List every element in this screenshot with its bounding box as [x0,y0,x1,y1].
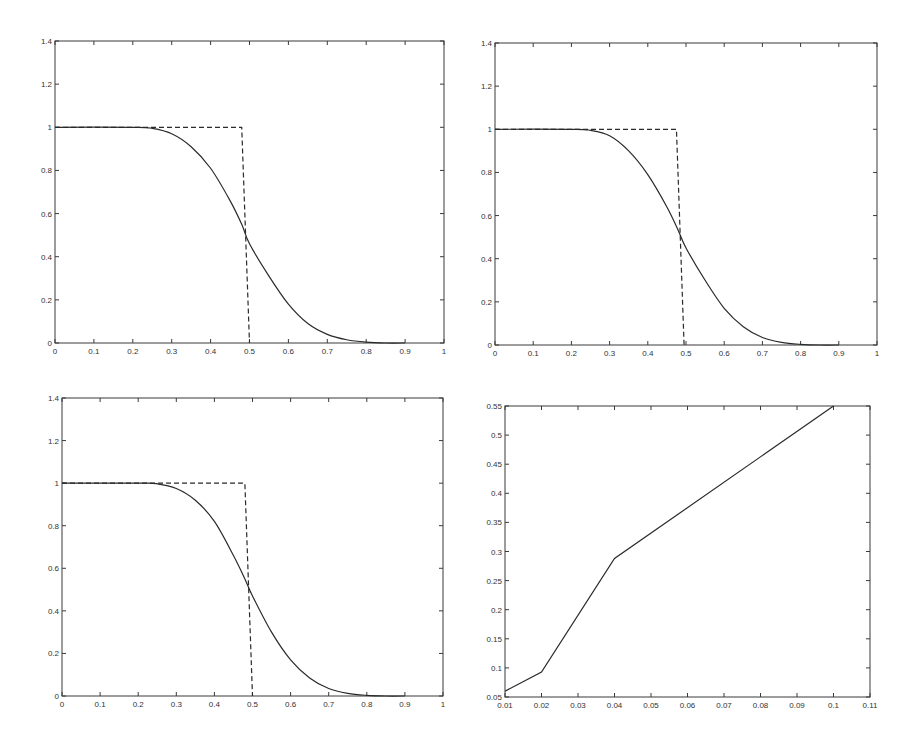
axes-frame [495,43,877,345]
y-tick-label: 1 [48,123,53,132]
y-tick-label: 1.4 [481,39,493,48]
x-tick-label: 0 [493,349,498,358]
y-tick-label: 0.4 [41,253,53,262]
x-tick-label: 0.08 [753,701,769,710]
x-tick-label: 0.04 [607,701,623,710]
y-tick-label: 0.4 [48,607,60,616]
x-tick-label: 0.1 [95,700,107,709]
y-tick-label: 1.2 [41,80,53,89]
x-tick-label: 0.3 [166,347,178,356]
x-tick-label: 0.09 [789,701,805,710]
x-tick-label: 0.6 [719,349,731,358]
x-tick-label: 0.4 [642,349,654,358]
figure-canvas: 00.10.20.30.40.50.60.70.80.9100.20.40.60… [0,0,913,741]
solid-series-line [55,127,405,343]
y-tick-label: 0.35 [486,518,502,527]
x-tick-label: 0.3 [171,700,183,709]
x-tick-label: 0.6 [285,700,297,709]
x-tick-label: 0.5 [247,700,259,709]
x-tick-label: 0.8 [361,700,373,709]
y-tick-label: 0.6 [41,210,53,219]
dashed-series-line [62,483,253,696]
solid-series-line [495,129,839,345]
y-tick-label: 1.2 [481,82,493,91]
y-tick-label: 1.4 [48,394,60,403]
x-tick-label: 0.03 [570,701,586,710]
axes-frame [55,41,444,343]
x-tick-label: 0.1 [828,701,840,710]
y-tick-label: 0 [55,692,60,701]
x-tick-label: 0.05 [643,701,659,710]
x-tick-label: 0.9 [399,700,411,709]
x-tick-label: 1 [442,347,447,356]
x-tick-label: 0.2 [133,700,145,709]
y-tick-label: 1 [55,479,60,488]
y-tick-label: 0.1 [491,664,503,673]
axes-frame [505,406,870,697]
y-tick-label: 0.8 [48,522,60,531]
x-tick-label: 0.1 [528,349,540,358]
axes-frame [62,398,443,696]
x-tick-label: 0.4 [205,347,217,356]
x-tick-label: 0.8 [795,349,807,358]
y-tick-label: 0.4 [491,489,503,498]
x-tick-label: 0.7 [322,347,334,356]
y-tick-label: 0.6 [481,212,493,221]
x-tick-label: 1 [441,700,446,709]
y-tick-label: 0.8 [41,166,53,175]
plot-top-left: 00.10.20.30.40.50.60.70.80.9100.20.40.60… [41,37,447,356]
y-tick-label: 0.05 [486,693,502,702]
x-tick-label: 0.7 [757,349,769,358]
x-tick-label: 0.3 [604,349,616,358]
x-tick-label: 0.5 [244,347,256,356]
x-tick-label: 0.07 [716,701,732,710]
x-tick-label: 0.01 [497,701,513,710]
y-tick-label: 0.6 [48,564,60,573]
x-tick-label: 0.2 [127,347,139,356]
x-tick-label: 0.2 [566,349,578,358]
y-tick-label: 0.4 [481,255,493,264]
x-tick-label: 0.02 [534,701,550,710]
x-tick-label: 0.5 [680,349,692,358]
y-tick-label: 0.2 [48,649,60,658]
y-tick-label: 1.2 [48,437,60,446]
x-tick-label: 0 [53,347,58,356]
plot-bottom-left: 00.10.20.30.40.50.60.70.80.9100.20.40.60… [48,394,446,709]
y-tick-label: 1.4 [41,37,53,46]
y-tick-label: 0.5 [491,431,503,440]
x-tick-label: 0.7 [323,700,335,709]
x-tick-label: 0.4 [209,700,221,709]
y-tick-label: 1 [488,125,493,134]
dashed-series-line [55,127,250,343]
y-tick-label: 0.2 [481,298,493,307]
y-tick-label: 0.15 [486,635,502,644]
x-tick-label: 0.11 [863,701,879,710]
y-tick-label: 0.2 [491,606,503,615]
y-tick-label: 0.2 [41,296,53,305]
y-tick-label: 0 [488,341,493,350]
x-tick-label: 1 [875,349,880,358]
x-tick-label: 0.9 [833,349,845,358]
y-tick-label: 0.45 [486,460,502,469]
x-tick-label: 0.6 [283,347,295,356]
x-tick-label: 0.1 [88,347,100,356]
solid-series-line [62,483,405,696]
x-tick-label: 0.9 [400,347,412,356]
x-tick-label: 0.06 [680,701,696,710]
plot-top-right: 00.10.20.30.40.50.60.70.80.9100.20.40.60… [481,39,880,358]
dashed-series-line [495,129,684,345]
y-tick-label: 0.3 [491,548,503,557]
x-tick-label: 0 [60,700,65,709]
x-tick-label: 0.8 [361,347,373,356]
plot-bottom-right: 0.010.020.030.040.050.060.070.080.090.10… [486,402,878,710]
y-tick-label: 0.25 [486,577,502,586]
solid-series-line [505,406,834,691]
y-tick-label: 0.8 [481,168,493,177]
y-tick-label: 0 [48,339,53,348]
y-tick-label: 0.55 [486,402,502,411]
